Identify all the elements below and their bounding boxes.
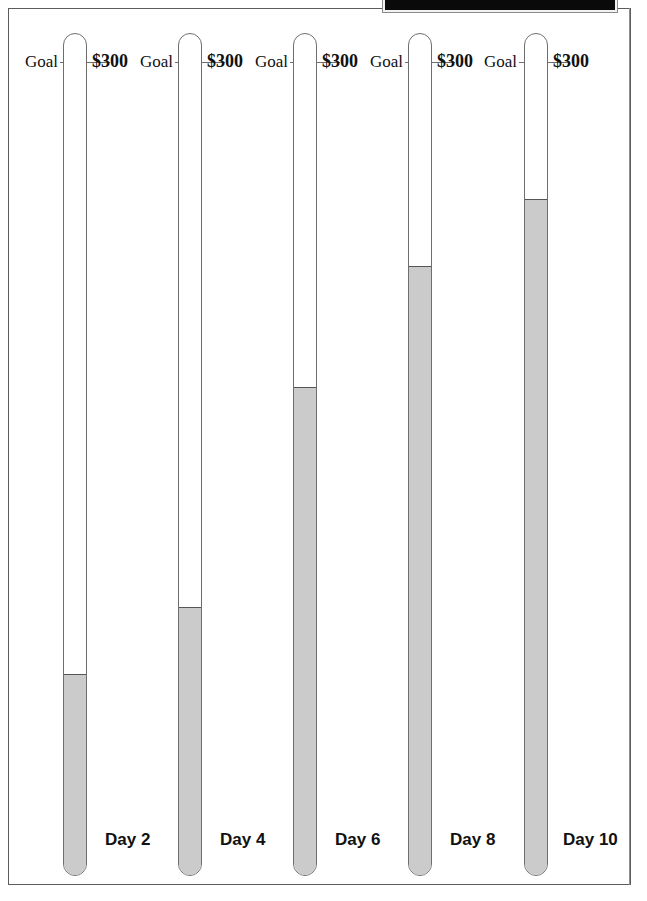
thermometer-chart: Goal $300 Day 2 Goal $300 Day 4 Goal $30… <box>0 0 647 901</box>
goal-label: Goal <box>10 52 58 72</box>
goal-label: Goal <box>240 52 288 72</box>
goal-amount-label: $300 <box>553 51 589 72</box>
thermometer-tube <box>293 33 317 876</box>
thermometer-day-2: Goal $300 Day 2 <box>0 0 115 901</box>
thermometer-fill <box>409 266 431 875</box>
thermometer-fill <box>294 387 316 875</box>
thermometer-fill <box>525 199 547 875</box>
cropped-toolbar-remnant <box>383 0 617 12</box>
thermometer-fill <box>64 674 86 875</box>
goal-label: Goal <box>355 52 403 72</box>
goal-label: Goal <box>125 52 173 72</box>
thermometer-tube <box>63 33 87 876</box>
goal-label: Goal <box>469 52 517 72</box>
thermometer-fill <box>179 607 201 875</box>
day-label: Day 10 <box>563 830 618 850</box>
thermometer-tube <box>524 33 548 876</box>
thermometer-day-8: Goal $300 Day 8 <box>345 0 460 901</box>
thermometer-day-6: Goal $300 Day 6 <box>230 0 345 901</box>
thermometer-day-10: Goal $300 Day 10 <box>461 0 576 901</box>
thermometer-tube <box>408 33 432 876</box>
thermometer-tube <box>178 33 202 876</box>
thermometer-day-4: Goal $300 Day 4 <box>115 0 230 901</box>
